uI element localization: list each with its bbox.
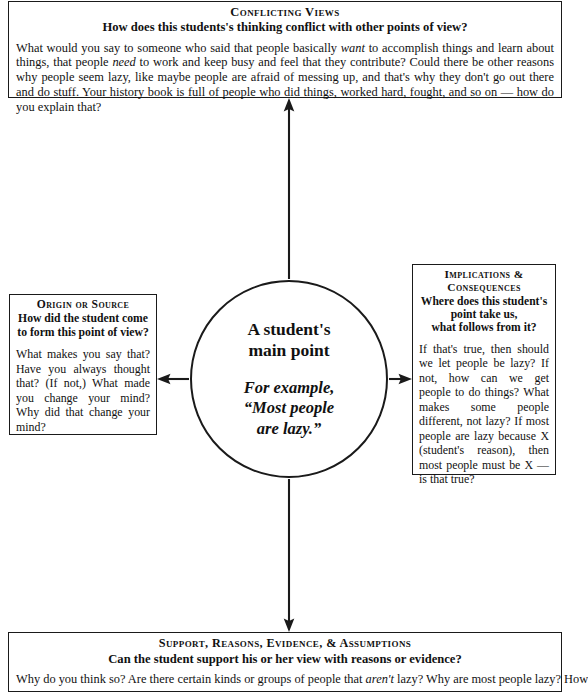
conflicting-views-box: Conflicting Views How does this students… xyxy=(8,1,562,98)
implications-heading-line-1: Implications & xyxy=(444,268,523,280)
implications-subheading-line-1: Where does this student's xyxy=(421,295,547,308)
main-point-example: For example, “Most people are lazy.” xyxy=(244,378,335,438)
support-reasons-evidence-box: Support, Reasons, Evidence, & Assumption… xyxy=(8,632,562,692)
origin-or-source-box: Origin or Source How did the student com… xyxy=(9,294,157,435)
origin-subheading-line-1: How did the student come xyxy=(18,312,148,325)
implications-consequences-subheading: Where does this student's point take us,… xyxy=(419,295,549,335)
main-point-label: A student's main point xyxy=(247,319,330,361)
implications-consequences-body: If that's true, then should we let peopl… xyxy=(419,342,549,487)
conflicting-views-subheading: How does this students's thinking confli… xyxy=(16,20,554,35)
conflicting-views-body: What would you say to someone who said t… xyxy=(16,41,554,115)
main-point-circle: A student's main point For example, “Mos… xyxy=(190,280,388,478)
example-line-1: For example, xyxy=(244,378,335,397)
implications-consequences-box: Implications & Consequences Where does t… xyxy=(412,264,556,475)
origin-subheading-line-2: to form this point of view? xyxy=(17,326,148,339)
conflicting-views-heading: Conflicting Views xyxy=(16,5,554,19)
arrow-right xyxy=(389,374,412,385)
origin-or-source-subheading: How did the student come to form this po… xyxy=(16,312,150,339)
origin-or-source-heading: Origin or Source xyxy=(16,298,150,311)
support-reasons-heading: Support, Reasons, Evidence, & Assumption… xyxy=(16,637,554,651)
arrow-down xyxy=(284,479,295,632)
implications-consequences-heading: Implications & Consequences xyxy=(419,268,549,294)
main-point-line-1: A student's xyxy=(247,319,330,339)
support-reasons-body: Why do you think so? Are there certain k… xyxy=(16,672,554,687)
arrow-up xyxy=(284,98,295,279)
implications-heading-line-2: Consequences xyxy=(447,281,521,293)
arrow-left xyxy=(157,374,189,385)
example-line-3: are lazy.” xyxy=(257,419,321,438)
main-point-line-2: main point xyxy=(248,340,329,360)
origin-or-source-body: What makes you say that? Have you always… xyxy=(16,347,150,434)
example-line-2: “Most people xyxy=(244,398,334,417)
support-reasons-subheading: Can the student support his or her view … xyxy=(16,652,554,667)
implications-subheading-line-2: point take us, xyxy=(451,308,518,321)
implications-subheading-line-3: what follows from it? xyxy=(431,321,536,334)
